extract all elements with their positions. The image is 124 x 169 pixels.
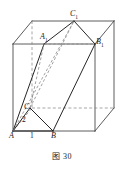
vertex-label-A: A (9, 132, 14, 140)
prism-edge-BB1 (53, 44, 95, 131)
figure-caption: 图 30 (0, 150, 124, 161)
measure-label-AC: 2 (22, 116, 26, 124)
vertex-label-B1: B1 (96, 38, 104, 48)
prism-edge-CB (30, 108, 53, 131)
vertex-label-C1: C1 (70, 10, 78, 20)
prism-lower-triangle (13, 108, 53, 131)
vertex-label-C: C (24, 103, 29, 111)
box-edge-bottom-right-diag (95, 108, 114, 131)
prism-edge-A1C1 (44, 21, 74, 44)
vertex-label-C1-sub: 1 (75, 14, 78, 20)
prism-edge-C1B1 (74, 21, 95, 44)
measure-label-AB: 1 (30, 132, 34, 140)
box-edge-top-left-diag (13, 21, 32, 44)
vertex-label-B: B (51, 132, 56, 140)
prism-upper-triangle (44, 21, 95, 44)
vertex-label-A1-sub: 1 (45, 37, 48, 43)
vertex-label-A1: A1 (40, 33, 48, 43)
prism-in-box-diagram (0, 0, 124, 169)
figure-30-container: A B C A1 B1 C1 1 2 图 30 (0, 0, 124, 169)
vertex-label-B1-sub: 1 (101, 42, 104, 48)
